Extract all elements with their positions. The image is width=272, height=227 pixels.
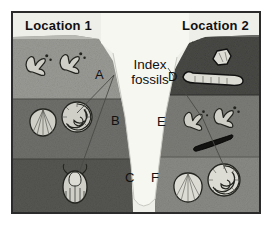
location-2-title: Location 2: [182, 19, 249, 32]
index-fossils-diagram: Location 1 Location 2 Index fossils A B …: [0, 0, 272, 227]
cross-section-illustration: [13, 13, 259, 212]
location-2-scallop-shell-fossil: [174, 173, 202, 202]
layer-label-e: E: [157, 115, 166, 128]
layer-label-f: F: [151, 171, 159, 184]
layer-label-c: C: [125, 171, 134, 184]
location-1-title: Location 1: [25, 19, 92, 32]
diagram-frame: Location 1 Location 2 Index fossils A B …: [11, 11, 261, 214]
layer-label-a: A: [95, 68, 104, 81]
location-1-clam-shell-fossil: [30, 109, 56, 136]
location-1-ammonite-fossil: [62, 102, 92, 132]
location-2-ammonite-fossil: [208, 164, 240, 196]
layer-label-d: D: [168, 70, 177, 83]
layer-label-b: B: [111, 114, 120, 127]
diagram-stage: Location 1 Location 2 Index fossils A B …: [13, 13, 259, 212]
